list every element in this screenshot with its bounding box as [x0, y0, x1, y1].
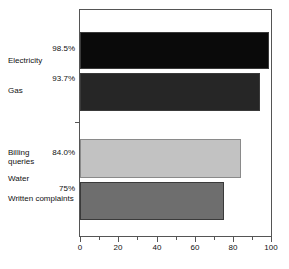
x-tick-30 [137, 237, 138, 240]
x-tick-label-0: 0 [65, 243, 95, 253]
value-label-gas: 93.7% [35, 74, 75, 83]
x-tick-100 [271, 237, 272, 242]
bar-electricity [80, 32, 269, 69]
x-tick-label-100: 100 [256, 243, 286, 253]
y-axis-category-tick [75, 122, 80, 123]
value-label-written-complaints: 75% [35, 184, 75, 193]
bar-gas [80, 73, 260, 111]
x-tick-label-60: 60 [180, 243, 210, 253]
category-label-billing-queries: Billing queries [8, 148, 34, 166]
category-label-gas: Gas [8, 86, 23, 95]
value-label-billing-queries: 84.0% [35, 148, 75, 157]
bar-written-complaints [80, 182, 224, 220]
x-tick-label-20: 20 [103, 243, 133, 253]
x-tick-10 [99, 237, 100, 240]
x-tick-80 [233, 237, 234, 242]
x-tick-0 [80, 237, 81, 242]
bars-layer [80, 10, 272, 237]
x-tick-90 [252, 237, 253, 240]
value-label-electricity: 98.5% [35, 44, 75, 53]
category-label-written-complaints: Written complaints [8, 194, 74, 203]
x-tick-50 [176, 237, 177, 240]
x-tick-label-40: 40 [142, 243, 172, 253]
x-tick-label-80: 80 [218, 243, 248, 253]
x-tick-60 [195, 237, 196, 242]
x-tick-40 [157, 237, 158, 242]
category-label-electricity: Electricity [8, 56, 42, 65]
bar-chart: 0 20 40 60 80 100 Electricity Gas Billin… [0, 0, 289, 269]
bar-billing-queries [80, 139, 241, 178]
category-label-water: Water [8, 174, 29, 183]
x-tick-20 [118, 237, 119, 242]
x-tick-70 [214, 237, 215, 240]
